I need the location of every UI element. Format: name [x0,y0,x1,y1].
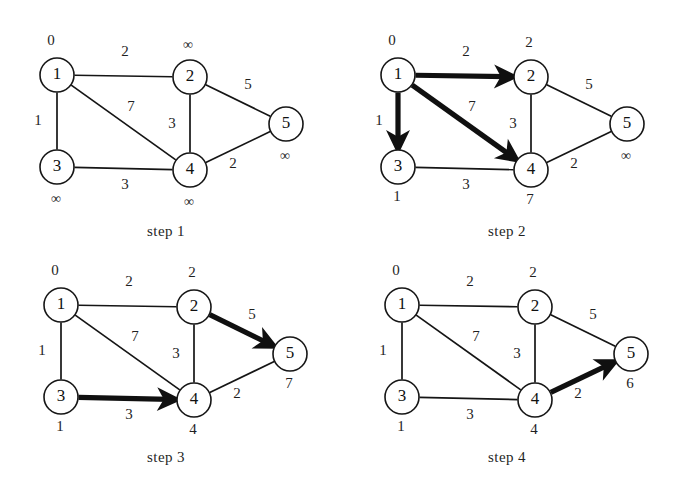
dijkstra-steps-figure: 2173532102∞3∞4∞5∞step 12173532102231475∞… [0,0,675,497]
edge-weight-2-5: 5 [585,76,593,92]
node-2-label: 2 [527,66,536,85]
edge-weight-1-3: 1 [379,342,387,358]
node-1-distance: 0 [392,262,400,278]
panel-caption-step4: step 4 [488,449,526,465]
node-3-distance: 1 [397,418,405,434]
edge-weight-1-3: 1 [375,112,383,128]
node-2-distance: ∞ [183,37,193,52]
node-5-distance: 6 [626,375,634,391]
edge-weight-2-5: 5 [248,306,256,322]
node-3-distance: ∞ [51,191,61,206]
panel-caption-step3: step 3 [147,449,185,465]
edge-weight-1-2: 2 [462,43,470,59]
node-4-distance: 7 [526,191,534,207]
node-4-label: 4 [190,389,199,408]
node-4-distance: 4 [530,421,538,437]
edge-weight-3-4: 3 [125,406,133,422]
node-5-distance: ∞ [280,148,290,163]
node-1-distance: 0 [51,262,59,278]
node-5-label: 5 [282,113,291,132]
node-5-distance: 7 [285,375,293,391]
node-1-distance: 0 [388,32,396,48]
node-3-label: 3 [57,386,66,405]
edge-weight-3-4: 3 [462,176,470,192]
node-3-distance: 1 [56,418,64,434]
node-5-label: 5 [623,113,632,132]
node-5-label: 5 [627,343,636,362]
edge-weight-1-3: 1 [38,342,46,358]
node-4-label: 4 [527,159,536,178]
node-2-distance: 2 [188,264,196,280]
edge-weight-2-4: 3 [513,345,521,361]
node-3-label: 3 [398,386,407,405]
node-1-label: 1 [53,64,62,83]
edge-weight-3-4: 3 [466,406,474,422]
figure-background [0,0,675,497]
edge-weight-1-3: 1 [34,112,42,128]
edge-weight-2-5: 5 [244,76,252,92]
node-4-label: 4 [186,159,195,178]
edge-arrow-1-2 [416,75,507,76]
edge-weight-3-4: 3 [121,176,129,192]
edge-arrow-3-4 [79,397,170,399]
panel-caption-step1: step 1 [147,223,185,239]
edge-weight-1-2: 2 [125,273,133,289]
edge-weight-1-2: 2 [121,43,129,59]
edge-weight-4-5: 2 [229,155,237,171]
node-3-label: 3 [394,156,403,175]
node-4-distance: ∞ [184,194,194,209]
node-5-distance: ∞ [621,148,631,163]
edge-weight-2-4: 3 [168,115,176,131]
node-1-distance: 0 [47,32,55,48]
node-2-distance: 2 [525,34,533,50]
node-3-label: 3 [53,156,62,175]
edge-weight-4-5: 2 [570,155,578,171]
node-1-label: 1 [394,64,403,83]
node-2-label: 2 [186,66,195,85]
edge-weight-2-5: 5 [589,306,597,322]
node-5-label: 5 [286,343,295,362]
edge-weight-1-2: 2 [466,273,474,289]
node-4-distance: 4 [189,421,197,437]
node-2-label: 2 [531,296,540,315]
edge-weight-4-5: 2 [233,385,241,401]
node-4-label: 4 [531,389,540,408]
edge-weight-1-4: 7 [472,328,480,344]
edge-weight-2-4: 3 [509,115,517,131]
edge-weight-1-4: 7 [131,328,139,344]
panel-caption-step2: step 2 [488,223,526,239]
edge-weight-1-4: 7 [468,98,476,114]
node-3-distance: 1 [393,188,401,204]
edge-weight-2-4: 3 [172,345,180,361]
edge-weight-4-5: 2 [574,385,582,401]
node-2-label: 2 [190,296,199,315]
node-2-distance: 2 [529,264,537,280]
node-1-label: 1 [398,294,407,313]
edge-weight-1-4: 7 [127,98,135,114]
node-1-label: 1 [57,294,66,313]
